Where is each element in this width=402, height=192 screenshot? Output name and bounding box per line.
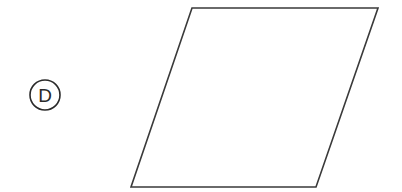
option-marker: D: [30, 80, 60, 110]
diagram-canvas: D: [0, 0, 402, 192]
option-label: D: [38, 85, 52, 106]
parallelogram-shape: [131, 8, 378, 187]
